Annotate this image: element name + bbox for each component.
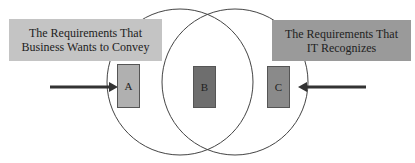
it-requirements-label: The Requirements That IT Recognizes bbox=[272, 20, 411, 61]
region-c-box: C bbox=[267, 66, 290, 108]
region-b-box: B bbox=[193, 66, 216, 108]
region-a-box: A bbox=[117, 64, 140, 108]
it-requirements-text: The Requirements That IT Recognizes bbox=[272, 27, 411, 55]
business-requirements-text: The Requirements That Business Wants to … bbox=[9, 26, 162, 54]
business-requirements-label: The Requirements That Business Wants to … bbox=[9, 19, 162, 61]
region-a-label: A bbox=[125, 80, 133, 92]
region-b-label: B bbox=[201, 81, 208, 93]
region-c-label: C bbox=[275, 81, 282, 93]
